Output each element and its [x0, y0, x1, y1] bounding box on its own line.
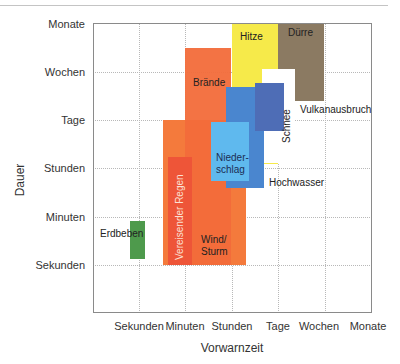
label-sturm: Sturm [201, 246, 228, 258]
xtick-stunden: Stunden [212, 320, 253, 332]
label-wind: Wind/ [201, 234, 227, 246]
xtick-sekunden: Sekunden [114, 320, 164, 332]
label-duerre: Dürre [288, 27, 313, 39]
x-axis-label: Vorwarnzeit [201, 341, 264, 355]
ytick-tage: Tage [61, 114, 85, 126]
xtick-monate: Monate [350, 320, 387, 332]
ytick-minuten: Minuten [46, 211, 85, 223]
label-niederschlag-1: Nieder- [216, 152, 249, 164]
label-niederschlag-2: schlag [216, 164, 245, 176]
xtick-wochen: Wochen [299, 320, 339, 332]
top-rule [0, 5, 388, 6]
ytick-wochen: Wochen [45, 66, 85, 78]
label-hochwasser: Hochwasser [269, 177, 324, 189]
label-braende: Brände [193, 77, 225, 89]
label-vereisender-regen: Vereisender Regen [174, 174, 186, 260]
xtick-tage: Tage [266, 320, 290, 332]
label-hitze: Hitze [240, 31, 263, 43]
label-vulkanausbruch: Vulkanausbruch [300, 104, 371, 116]
xtick-minuten: Minuten [165, 320, 204, 332]
ytick-stunden: Stunden [44, 162, 85, 174]
label-erdbeben: Erdbeben [100, 228, 143, 240]
ytick-sekunden: Sekunden [35, 259, 85, 271]
y-axis-label: Dauer [13, 164, 27, 197]
label-schnee: Schnee [281, 109, 293, 143]
ytick-monate: Monate [48, 18, 85, 30]
